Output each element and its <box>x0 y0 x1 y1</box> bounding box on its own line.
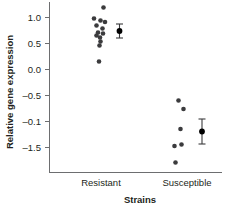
y-tick-label: –1.5 <box>23 142 42 153</box>
y-axis-title: Relative gene expression <box>4 35 15 149</box>
x-tick-labels: Resistant Susceptible <box>81 177 211 188</box>
data-point <box>176 98 181 103</box>
y-tick-label: 1.0 <box>28 12 41 23</box>
data-point <box>98 35 103 40</box>
y-tick-label: –0.1 <box>23 116 42 127</box>
susceptible-points-group <box>172 98 186 165</box>
data-point <box>98 18 103 23</box>
y-tick-label: 0.5 <box>28 38 41 49</box>
susceptible-mean-errorbar <box>199 119 206 144</box>
y-tick-label: –0.5 <box>23 90 42 101</box>
data-point <box>100 26 105 31</box>
y-tick-marks <box>45 18 50 148</box>
axis-spines <box>50 2 223 173</box>
data-point <box>98 39 103 44</box>
x-tick-label-resistant: Resistant <box>81 177 121 188</box>
data-point <box>97 43 102 48</box>
data-point <box>103 20 108 25</box>
data-point <box>173 160 178 165</box>
data-point <box>101 31 106 36</box>
y-tick-label: 0.0 <box>28 64 41 75</box>
y-tick-labels: 1.0 0.5 0.0 –0.5 –0.1 –1.5 <box>23 12 42 153</box>
plot-area: 1.0 0.5 0.0 –0.5 –0.1 –1.5 Relative gene… <box>0 0 231 207</box>
data-point <box>101 5 106 10</box>
resistant-mean-errorbar <box>116 24 123 38</box>
resistant-points-group <box>92 5 108 64</box>
mean-marker <box>199 129 205 135</box>
x-axis-title: Strains <box>124 194 156 205</box>
mean-marker <box>117 28 123 34</box>
gene-expression-scatter-figure: 1.0 0.5 0.0 –0.5 –0.1 –1.5 Relative gene… <box>0 0 231 207</box>
data-point <box>97 59 102 64</box>
data-point <box>92 16 97 21</box>
data-point <box>172 144 177 149</box>
x-tick-label-susceptible: Susceptible <box>162 177 211 188</box>
data-point <box>179 142 184 147</box>
data-point <box>178 127 183 132</box>
data-point <box>181 107 186 112</box>
data-point <box>94 23 99 28</box>
